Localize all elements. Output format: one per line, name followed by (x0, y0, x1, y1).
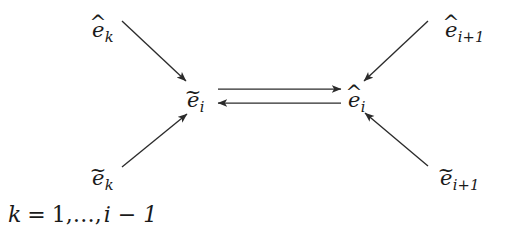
hat-accent-icon: ^ (89, 12, 106, 32)
subscript: i (200, 98, 205, 115)
index-range-condition: k=1,…,i − 1 (8, 204, 157, 226)
tilde-accent-icon: ~ (89, 160, 106, 180)
condition-equals: = (27, 202, 45, 227)
condition-ellipsis: ,…, (66, 202, 102, 227)
node-e-hat-i: ^ e i (348, 84, 365, 111)
subscript: i+1 (453, 176, 480, 193)
subscript: i (361, 98, 366, 115)
figure-canvas: ^ e k ~ e k ^ e i+1 ~ e i+1 (0, 0, 520, 241)
arrow-hat-i-plus-1-to-hat-i (364, 21, 428, 81)
tilde-accent-icon: ~ (184, 82, 201, 102)
tilde-accent-icon: ~ (437, 160, 454, 180)
label-e-tilde-k: ~ e k (92, 162, 114, 189)
condition-end-expression: i − 1 (104, 202, 157, 227)
arrow-tilde-k-to-tilde-i (122, 114, 187, 167)
arrow-tilde-i-plus-1-to-hat-i (365, 113, 428, 166)
hat-accent-icon: ^ (345, 82, 362, 102)
condition-variable: k (8, 202, 21, 227)
subscript: k (105, 28, 114, 45)
arrow-hat-k-to-tilde-i (122, 21, 186, 81)
subscript: i+1 (458, 28, 485, 45)
hat-accent-icon: ^ (442, 12, 459, 32)
subscript: k (105, 176, 114, 193)
label-e-hat-k: ^ e k (92, 14, 114, 41)
label-e-tilde-i-plus-1: ~ e i+1 (440, 162, 479, 189)
label-e-hat-i-plus-1: ^ e i+1 (445, 14, 484, 41)
node-e-tilde-i: ~ e i (187, 84, 204, 111)
condition-start: 1 (52, 202, 66, 227)
